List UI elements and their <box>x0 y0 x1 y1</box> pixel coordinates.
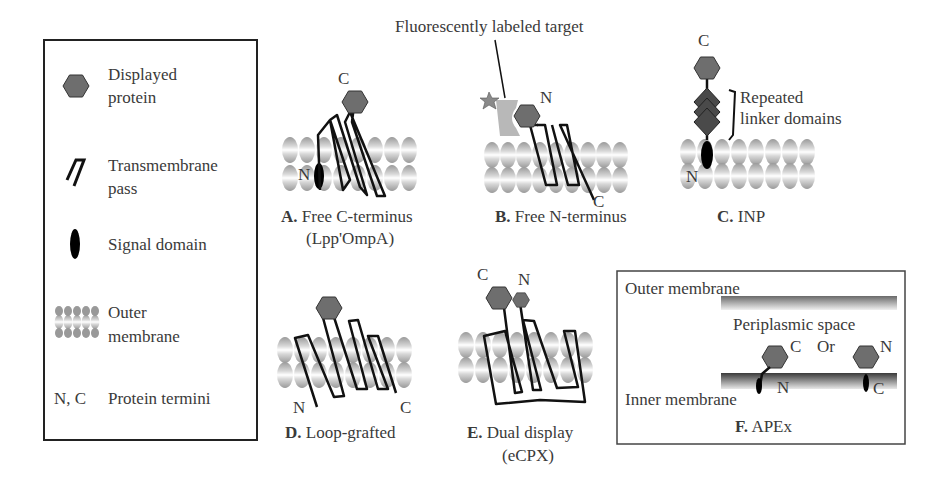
legend-outer-line1: Outer <box>108 303 147 322</box>
panel-a-title: A. Free C-terminus <box>281 207 413 226</box>
panel-f-title: F. APEx <box>735 417 793 436</box>
c-terminus-label: C <box>698 31 709 50</box>
hexagon-icon <box>316 297 342 319</box>
n-terminus-label: N <box>293 398 305 417</box>
c-terminus-label: C <box>400 398 411 417</box>
panel-letter: E. <box>467 423 483 442</box>
panel-c-title: C. INP <box>717 207 765 226</box>
panel-title: Loop-grafted <box>306 423 396 442</box>
hexagon-icon <box>342 91 368 113</box>
linker-annotation-line1: Repeated <box>740 88 804 107</box>
linker-annotation-line2: linker domains <box>740 109 842 128</box>
fluorescent-target-label: Fluorescently labeled target <box>395 17 584 36</box>
panel-e-subtitle: (eCPX) <box>502 446 554 465</box>
hexagon-icon <box>762 346 788 368</box>
hexagon-icon <box>486 287 512 309</box>
signal-domain-icon <box>863 374 869 392</box>
panel-a-subtitle: (Lpp'OmpA) <box>306 229 394 248</box>
inner-membrane-bar <box>721 373 897 389</box>
right-c-label: C <box>873 379 884 398</box>
panel-f: Outer membrane Periplasmic space C N Or … <box>617 271 905 444</box>
hexagon-icon <box>513 293 530 307</box>
left-c-label: C <box>790 337 801 356</box>
panel-letter: C. <box>717 207 734 226</box>
legend-displayed-line1: Displayed <box>108 65 177 84</box>
signal-domain-icon <box>70 229 80 259</box>
legend-outer-line2: membrane <box>108 327 180 346</box>
legend-tm-line2: pass <box>108 179 137 198</box>
panel-letter: A. <box>281 207 298 226</box>
star-icon <box>480 92 499 109</box>
periplasmic-space-label: Periplasmic space <box>733 315 855 334</box>
panel-b: Fluorescently labeled target N C B. Free… <box>395 17 628 226</box>
or-label: Or <box>817 337 835 356</box>
panel-d-title: D. Loop-grafted <box>285 423 396 442</box>
linker-domains-icon <box>694 88 720 136</box>
panel-e: C N E. Dual display (eCPX) <box>458 265 593 465</box>
inner-membrane-label: Inner membrane <box>625 390 737 409</box>
n-terminus-label: N <box>540 88 552 107</box>
panel-b-title: B. Free N-terminus <box>495 207 627 226</box>
hexagon-icon <box>63 75 89 97</box>
n-terminus-label: N <box>298 165 310 184</box>
legend-signal-label: Signal domain <box>108 235 207 254</box>
n-terminus-label: N <box>686 167 698 186</box>
panel-a: C N A. Free C-terminus (Lpp'OmpA) <box>281 69 417 248</box>
display-systems-diagram: Displayed protein Transmembrane pass Sig… <box>0 0 943 494</box>
outer-membrane-bar <box>721 296 897 310</box>
panel-title: INP <box>738 207 765 226</box>
legend-displayed-line2: protein <box>108 88 157 107</box>
outer-membrane-label: Outer membrane <box>625 279 740 298</box>
hexagon-icon <box>694 57 720 79</box>
panel-title: Free N-terminus <box>515 207 627 226</box>
panel-c: Repeated linker domains C N C. INP <box>680 31 842 226</box>
panel-title: Dual display <box>487 423 574 442</box>
outer-membrane-icon <box>55 306 100 338</box>
panel-e-title: E. Dual display <box>467 423 574 442</box>
panel-letter: F. <box>735 417 748 436</box>
legend: Displayed protein Transmembrane pass Sig… <box>44 40 257 440</box>
panel-title: APEx <box>751 417 792 436</box>
transmembrane-pass-icon <box>67 160 84 186</box>
signal-domain-icon <box>701 141 713 169</box>
membrane <box>680 139 815 189</box>
hexagon-icon <box>853 346 879 368</box>
legend-termini-label: Protein termini <box>108 389 211 408</box>
c-terminus-label: C <box>338 69 349 88</box>
signal-domain-icon <box>756 378 762 394</box>
panel-title: Free C-terminus <box>302 207 413 226</box>
n-terminus-label: N <box>518 270 530 289</box>
termini-symbol: N, C <box>54 389 86 408</box>
panel-d: N C D. Loop-grafted <box>277 297 412 442</box>
legend-tm-line1: Transmembrane <box>108 156 218 175</box>
hexagon-icon <box>514 105 540 127</box>
panel-letter: B. <box>495 207 511 226</box>
panel-letter: D. <box>285 423 302 442</box>
right-n-label: N <box>880 337 892 356</box>
c-terminus-label: C <box>477 265 488 284</box>
left-n-label: N <box>777 378 789 397</box>
